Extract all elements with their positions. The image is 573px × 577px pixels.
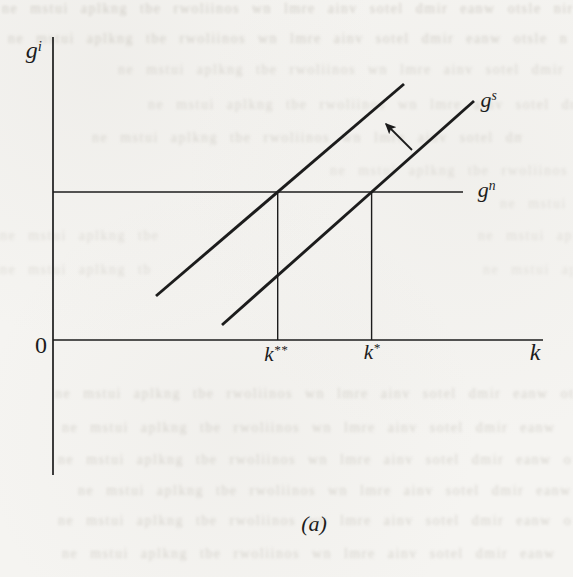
shift-arrow (386, 124, 412, 150)
gs-line-initial (222, 101, 474, 325)
x-axis-label: k (530, 340, 541, 364)
scanned-page: ne mstui aplkng tbe rwoliinos wn lmre ai… (0, 0, 573, 577)
origin-label: 0 (35, 333, 47, 357)
gs-curve-label: gs (481, 89, 498, 111)
panel-label: (a) (301, 513, 327, 535)
gn-line-label: gn (478, 179, 496, 201)
k-double-star-label: k** (264, 343, 287, 365)
k-star-label: k* (364, 341, 380, 363)
y-axis-label: gi (26, 38, 43, 62)
gs-line-shifted (156, 84, 404, 296)
